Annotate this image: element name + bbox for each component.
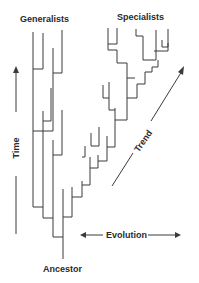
tree-lines — [0, 0, 199, 283]
evolution-label: Evolution — [106, 230, 147, 240]
ancestor-label: Ancestor — [43, 264, 82, 274]
specialists-branches — [108, 28, 168, 78]
generalists-branches — [33, 30, 72, 259]
time-label: Time — [11, 138, 21, 159]
trend-arrow — [112, 66, 184, 186]
evolution-tree-diagram: Generalists Specialists Time Trend Evolu… — [0, 0, 199, 283]
specialists-staircase — [72, 72, 145, 197]
generalists-label: Generalists — [20, 14, 69, 24]
specialists-label: Specialists — [117, 12, 164, 22]
